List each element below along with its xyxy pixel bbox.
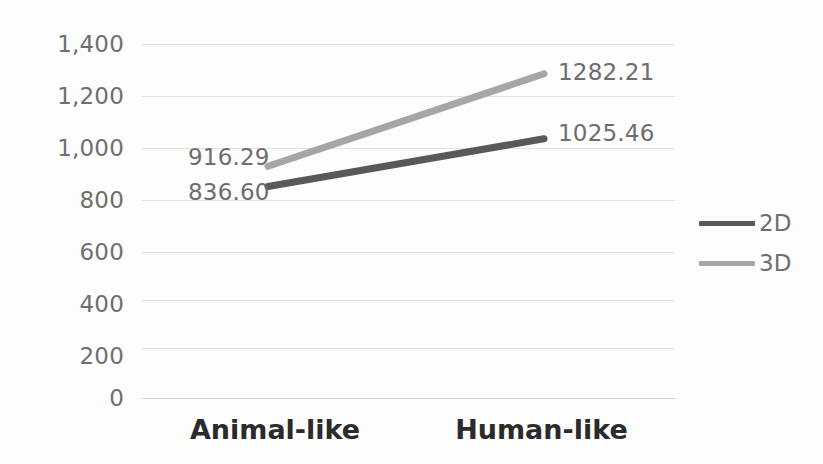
legend-label-2d: 2D: [759, 212, 791, 235]
data-label-3d-human: 1282.21: [558, 59, 655, 85]
y-tick-label-1400: 1,400: [0, 31, 124, 57]
series-line-2d: [268, 139, 544, 187]
chart-page: 1,400 1,200 1,000 800 600 400 200 0 916.…: [0, 0, 823, 464]
legend: 2D 3D: [699, 205, 809, 285]
data-label-3d-animal: 916.29: [188, 144, 270, 170]
plot-area: [142, 30, 675, 402]
y-axis: 1,400 1,200 1,000 800 600 400 200 0: [0, 0, 124, 464]
data-label-2d-human: 1025.46: [558, 120, 655, 146]
y-tick-label-200: 200: [0, 343, 124, 369]
x-tick-label-human-like: Human-like: [408, 414, 675, 445]
series-lines: [142, 30, 675, 402]
y-tick-label-1000: 1,000: [0, 135, 124, 161]
y-tick-label-600: 600: [0, 239, 124, 265]
legend-swatch-3d-icon: [699, 261, 755, 266]
y-tick-label-0: 0: [0, 385, 124, 411]
series-line-3d: [268, 74, 544, 167]
legend-item-3d[interactable]: 3D: [699, 250, 791, 276]
y-tick-label-400: 400: [0, 291, 124, 317]
legend-item-2d[interactable]: 2D: [699, 210, 791, 236]
x-tick-label-animal-like: Animal-like: [142, 414, 408, 445]
y-tick-label-800: 800: [0, 187, 124, 213]
data-label-2d-animal: 836.60: [188, 179, 270, 205]
x-axis: Animal-like Human-like: [142, 414, 675, 460]
legend-label-3d: 3D: [759, 252, 791, 275]
legend-swatch-2d-icon: [699, 221, 755, 226]
y-tick-label-1200: 1,200: [0, 83, 124, 109]
